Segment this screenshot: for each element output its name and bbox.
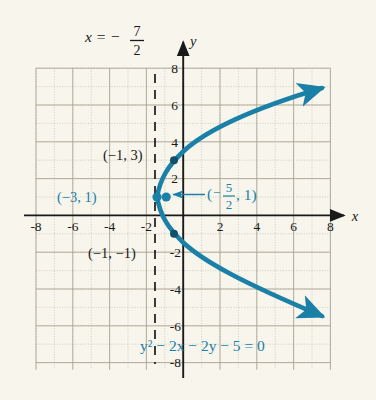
y-tick: -4 [170,282,181,297]
directrix-label-denominator: 2 [134,43,141,58]
directrix-label-numerator: 7 [134,24,141,39]
x-tick: -2 [141,219,152,234]
focus-label-denominator: 2 [226,197,233,212]
y-tick: -8 [170,355,181,370]
focus-marker [162,192,171,201]
x-tick: 8 [327,219,334,234]
latus-rectum-upper-marker [170,156,178,164]
parabola-graph: x y -8 -6 -4 -2 2 4 6 8 8 6 4 2 -2 -4 -6… [0,0,376,400]
y-tick: -6 [170,319,181,334]
x-tick: 4 [253,219,260,234]
x-tick: 6 [290,219,297,234]
vertex-marker [152,192,161,201]
figure-canvas: x y -8 -6 -4 -2 2 4 6 8 8 6 4 2 -2 -4 -6… [0,0,376,400]
y-tick: 2 [171,171,178,186]
directrix-label-prefix: x = − [84,28,121,45]
latus-rectum-lower-marker [170,230,178,238]
x-tick: -6 [67,219,78,234]
focus-label-sign: − [213,185,220,200]
point-upper-label: (−1, 3) [103,147,143,164]
x-tick: 2 [217,219,224,234]
y-tick: 6 [171,98,178,113]
y-tick: 8 [171,61,178,76]
focus-label-numerator: 5 [226,180,233,195]
focus-label-close: , 1) [236,186,257,204]
y-tick: -2 [170,245,181,260]
y-tick: 4 [171,135,178,150]
point-lower-label: (−1, −1) [88,245,136,262]
y-axis-label: y [188,33,197,49]
x-tick: -4 [104,219,115,234]
equation-label: y² − 2x − 2y − 5 = 0 [140,337,265,354]
x-tick: -8 [30,219,41,234]
focus-label-open: ( [207,185,212,203]
x-axis-label: x [351,208,359,224]
vertex-label: (−3, 1) [57,189,97,206]
